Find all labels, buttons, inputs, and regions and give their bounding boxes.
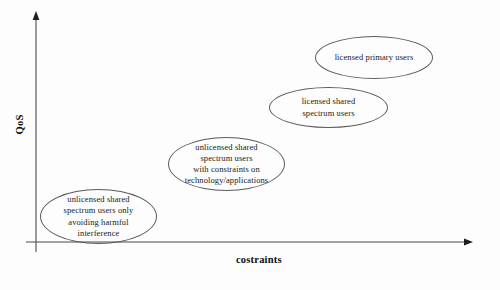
node-licensed-shared-spectrum-users[interactable]: licensed shared spectrum users xyxy=(269,87,388,128)
y-axis-label: QoS xyxy=(14,105,25,145)
node-licensed-primary-users[interactable]: licensed primary users xyxy=(315,36,433,79)
node-label: unlicensed shared spectrum users with co… xyxy=(185,142,269,187)
x-axis-label: costraints xyxy=(236,254,282,265)
horizontal-axis-arrowhead xyxy=(464,239,473,246)
node-unlicensed-shared-spectrum-avoiding-interference[interactable]: unlicensed shared spectrum users only av… xyxy=(40,189,157,244)
node-label: licensed primary users xyxy=(335,52,414,63)
node-label: unlicensed shared spectrum users only av… xyxy=(64,194,134,239)
node-label: licensed shared spectrum users xyxy=(302,96,356,118)
node-unlicensed-shared-spectrum-with-constraints[interactable]: unlicensed shared spectrum users with co… xyxy=(168,137,285,191)
vertical-axis-arrowhead xyxy=(33,11,40,20)
diagram-canvas: unlicensed shared spectrum users only av… xyxy=(0,0,500,290)
